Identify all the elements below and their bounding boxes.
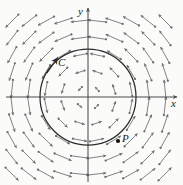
field-vector: [130, 99, 133, 113]
field-vector: [143, 48, 153, 63]
field-vector: [90, 139, 104, 142]
field-vector-base-dot: [126, 129, 128, 131]
field-vector-base-dot: [33, 46, 35, 48]
field-vector: [125, 48, 138, 61]
field-vector-base-dot: [38, 132, 40, 134]
field-vector: [40, 49, 53, 62]
field-vector-base-dot: [94, 107, 96, 109]
y-axis-label: y: [78, 6, 83, 17]
field-vector: [8, 132, 17, 148]
curve-direction-arrowhead: [47, 60, 56, 73]
field-vector-base-dot: [150, 79, 152, 81]
field-vector: [25, 115, 32, 132]
field-vector: [61, 102, 64, 111]
field-vector-base-dot: [43, 98, 45, 100]
x-axis-label: x: [171, 98, 176, 109]
point-p-marker: [116, 139, 120, 143]
field-vector: [159, 15, 172, 28]
field-vector: [39, 33, 54, 44]
field-vector-base-dot: [21, 149, 23, 151]
field-vector: [22, 168, 36, 179]
field-vector-base-dot: [15, 46, 17, 48]
field-vector: [93, 70, 102, 73]
field-vector-base-dot: [46, 81, 48, 83]
field-vector-base-dot: [140, 162, 142, 164]
field-vector: [161, 47, 170, 63]
field-vector-base-dot: [52, 32, 54, 34]
field-vector-base-dot: [41, 115, 43, 117]
field-vector: [38, 170, 54, 179]
field-vector: [11, 97, 13, 115]
field-vector: [159, 31, 170, 45]
field-vector: [112, 101, 115, 110]
curve-label-c: C: [58, 57, 65, 68]
field-vector-base-dot: [136, 60, 138, 62]
field-vector-base-dot: [122, 177, 124, 179]
field-vector: [113, 84, 116, 93]
field-vector: [25, 64, 32, 81]
field-vector: [88, 20, 106, 22]
field-vector-base-dot: [37, 168, 39, 170]
field-vector: [59, 68, 67, 76]
field-vector: [6, 150, 17, 164]
field-vector: [159, 168, 172, 181]
field-vector-base-dot: [35, 14, 37, 16]
vector-field-canvas: [0, 0, 183, 185]
field-vector-base-dot: [134, 78, 136, 80]
field-vector: [23, 151, 36, 164]
field-vector-base-dot: [37, 151, 39, 153]
field-vector-base-dot: [169, 44, 171, 46]
field-vector-base-dot: [29, 79, 31, 81]
field-vector-base-dot: [53, 170, 55, 172]
point-label-p: P: [122, 133, 129, 144]
field-vector-base-dot: [122, 161, 124, 163]
field-vector: [92, 121, 101, 124]
field-vector: [28, 97, 31, 115]
field-vector-base-dot: [105, 38, 107, 40]
field-vector-base-dot: [8, 113, 10, 115]
field-vector: [110, 68, 118, 77]
field-vector: [11, 80, 13, 98]
field-vector-base-dot: [53, 152, 55, 154]
field-vector: [55, 154, 72, 161]
field-vector: [71, 156, 89, 158]
field-vector: [142, 32, 155, 45]
field-vector: [106, 153, 123, 160]
field-vector-base-dot: [16, 30, 18, 32]
field-vector-base-dot: [168, 62, 170, 64]
field-vector: [143, 133, 154, 148]
field-vector-base-dot: [57, 118, 59, 120]
field-vector: [88, 173, 106, 175]
field-vector-base-dot: [137, 42, 139, 44]
field-vector-base-dot: [5, 149, 7, 151]
field-vector-base-dot: [167, 80, 169, 82]
field-vector-base-dot: [138, 24, 140, 26]
field-vector-base-dot: [152, 61, 154, 63]
field-vector: [59, 119, 68, 127]
field-vector-base-dot: [70, 33, 72, 35]
field-vector-base-dot: [55, 135, 57, 137]
field-vector-base-dot: [34, 30, 36, 32]
field-vector-base-dot: [100, 72, 102, 74]
field-vector: [164, 80, 166, 98]
field-vector-base-dot: [51, 47, 53, 49]
field-vector: [75, 122, 84, 125]
field-vector: [38, 17, 54, 26]
field-vector: [145, 64, 152, 81]
field-vector: [105, 18, 122, 24]
vector-field-figure: x y C P: [0, 0, 183, 185]
field-vector-base-dot: [70, 155, 72, 157]
field-vector: [141, 15, 155, 26]
field-vector: [142, 151, 155, 164]
field-vector-base-dot: [105, 21, 107, 23]
field-vector-base-dot: [4, 166, 6, 168]
field-vector-base-dot: [14, 62, 16, 64]
field-vector: [39, 152, 54, 162]
field-vector-base-dot: [159, 147, 161, 149]
field-vector-base-dot: [22, 131, 24, 133]
field-vector: [130, 82, 133, 96]
field-vector-base-dot: [77, 103, 79, 105]
axes-group: [6, 8, 177, 182]
field-vector-base-dot: [60, 100, 62, 102]
field-vector-base-dot: [31, 62, 33, 64]
